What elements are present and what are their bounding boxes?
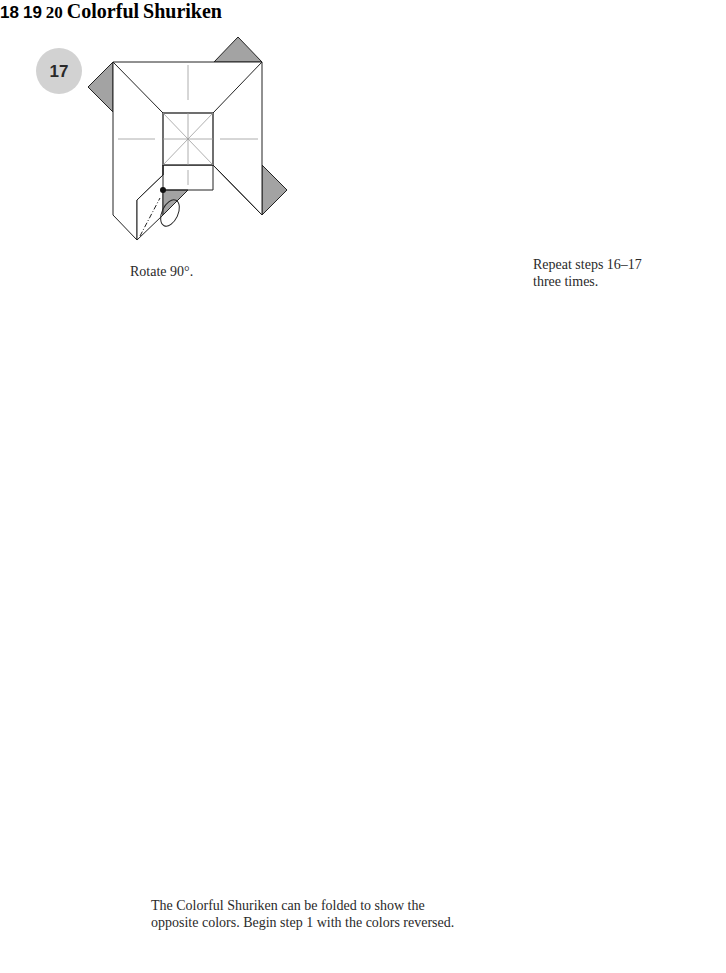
note-line2: opposite colors. Begin step 1 with the c… — [151, 914, 454, 931]
diagram-canvas: 17 — [0, 0, 726, 973]
note-line1: The Colorful Shuriken can be folded to s… — [151, 897, 425, 914]
step-18-caption-line2: three times. — [533, 273, 598, 290]
step-17: 17 — [36, 37, 287, 240]
step-18-caption-line1: Repeat steps 16–17 — [533, 256, 642, 273]
step-17-caption: Rotate 90°. — [130, 263, 193, 280]
step-number-17: 17 — [50, 62, 69, 81]
